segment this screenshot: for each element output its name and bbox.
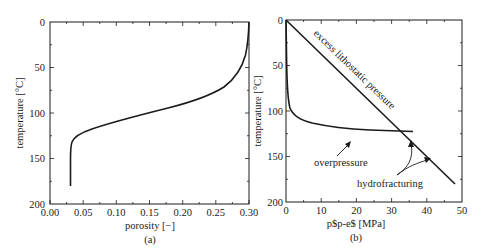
y-tick-label-a-100: 100 bbox=[29, 108, 45, 119]
x-tick-label-b-50: 50 bbox=[457, 205, 468, 216]
panel-a: 0 50 100 150 200 0.00 0.05 0.10 0.15 0.2… bbox=[14, 17, 258, 247]
y-tick-label-a-0: 0 bbox=[40, 17, 45, 28]
annotation-lithostatic: excess lithostatic pressure bbox=[312, 28, 398, 112]
y-axis-title-a: temperature [°C] bbox=[14, 78, 25, 149]
y-axis-title-b: temperature [°C] bbox=[252, 76, 263, 147]
y-tick-label-a-50: 50 bbox=[35, 62, 46, 73]
x-tick-label-b-20: 20 bbox=[351, 205, 362, 216]
x-tick-label-a-6: 0.30 bbox=[240, 207, 258, 218]
porosity-curve bbox=[71, 22, 250, 186]
x-tick-label-b-10: 10 bbox=[316, 205, 327, 216]
x-axis-title-a: porosity [−] bbox=[125, 220, 175, 231]
y-tick-label-b-100: 100 bbox=[267, 106, 283, 117]
panel-label-a: (a) bbox=[144, 234, 156, 246]
y-tick-label-b-200: 200 bbox=[267, 197, 283, 208]
annotation-hydrofracturing: hydrofracturing bbox=[357, 178, 424, 189]
y-tick-label-b-150: 150 bbox=[267, 151, 283, 162]
x-tick-label-a-3: 0.15 bbox=[140, 207, 158, 218]
hydrofracturing-arrow-2 bbox=[397, 160, 427, 175]
x-axis-title-b: p$p-e$ [MPa] bbox=[327, 218, 386, 229]
y-tick-label-b-50: 50 bbox=[273, 60, 284, 71]
y-ticks-b bbox=[286, 43, 462, 180]
x-tick-label-b-0: 0 bbox=[283, 205, 288, 216]
x-tick-label-b-30: 30 bbox=[386, 205, 397, 216]
figure: 0 50 100 150 200 0.00 0.05 0.10 0.15 0.2… bbox=[0, 0, 485, 251]
x-tick-label-a-4: 0.20 bbox=[174, 207, 192, 218]
y-tick-label-b-0: 0 bbox=[278, 15, 283, 26]
overpressure-curve bbox=[286, 20, 413, 132]
x-tick-label-a-1: 0.05 bbox=[74, 207, 92, 218]
x-tick-label-b-40: 40 bbox=[422, 205, 433, 216]
x-tick-label-a-0: 0.00 bbox=[41, 207, 59, 218]
plot-frame-b bbox=[286, 20, 462, 202]
x-tick-label-a-2: 0.10 bbox=[107, 207, 125, 218]
lithostatic-pressure-line bbox=[286, 20, 455, 184]
annotation-overpressure: overpressure bbox=[314, 157, 368, 168]
panel-b: 0 50 100 150 200 0 10 20 30 40 50 p$p-e$… bbox=[252, 15, 467, 245]
x-tick-label-a-5: 0.25 bbox=[207, 207, 225, 218]
y-tick-label-a-150: 150 bbox=[29, 153, 45, 164]
panel-label-b: (b) bbox=[350, 232, 363, 244]
